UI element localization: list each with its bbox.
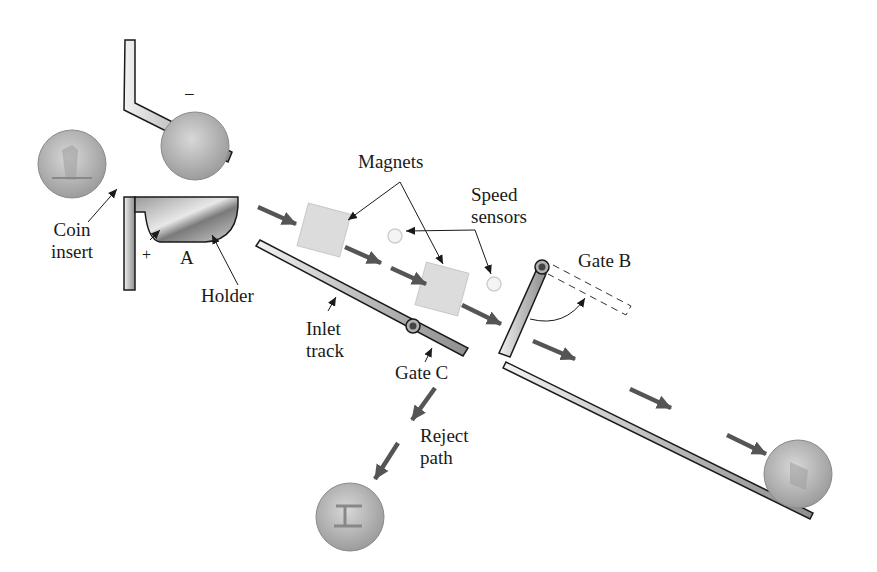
arrow-right-icon xyxy=(391,268,426,284)
inlet-track-label-line1: Inlet xyxy=(306,318,344,340)
speed-sensor-1 xyxy=(388,229,402,243)
coin-sorter-diagram: Coin insert − + A Holder Magnets Speed s… xyxy=(0,0,877,572)
coin-icon xyxy=(38,130,106,198)
gate-c-pivot xyxy=(406,319,420,333)
magnets-label: Magnets xyxy=(358,151,423,173)
speed-sensors-label: Speed sensors xyxy=(471,184,527,228)
arrow-down-left-icon xyxy=(412,388,435,420)
gate-b-label: Gate B xyxy=(578,250,631,272)
exit-track xyxy=(503,362,813,519)
gate-c-pointer xyxy=(425,348,432,362)
holder-pointer xyxy=(212,235,238,285)
coin-insert-label-line1: Coin xyxy=(42,219,102,241)
speed-sensor-2 xyxy=(487,277,501,291)
magnet-pointer-1 xyxy=(348,182,400,220)
coin-insert-label: Coin insert xyxy=(42,219,102,263)
inlet-track-pointer xyxy=(328,297,336,311)
arrow-right-icon xyxy=(258,207,296,224)
coin-icon xyxy=(316,483,384,551)
coin-insert-label-line2: insert xyxy=(42,241,102,263)
coin-icon xyxy=(764,440,832,508)
reject-path-label-line2: path xyxy=(420,447,469,469)
coin-holder xyxy=(135,197,238,242)
coin-icon xyxy=(161,112,229,180)
gate-b-open-position xyxy=(548,265,631,315)
gate-c-label: Gate C xyxy=(395,362,448,384)
reject-path-label-line1: Reject xyxy=(420,425,469,447)
holder-label: Holder xyxy=(201,285,254,307)
minus-sign-label: − xyxy=(184,84,195,106)
arrow-right-icon xyxy=(345,247,381,263)
arrow-right-icon xyxy=(533,341,575,359)
diagram-canvas xyxy=(0,0,877,572)
inlet-track-label: Inlet track xyxy=(306,318,344,362)
plus-sign-label: + xyxy=(142,244,151,266)
speed-sensors-label-line2: sensors xyxy=(471,206,527,228)
arrow-down-left-icon xyxy=(375,443,398,479)
sensor-pointer-2 xyxy=(475,230,491,274)
sensor-pointer-1 xyxy=(406,230,475,231)
magnet-1 xyxy=(297,203,351,257)
gate-b-swing-arrow xyxy=(530,298,585,321)
arrow-right-icon xyxy=(727,435,766,454)
reject-path-label: Reject path xyxy=(420,425,469,469)
magnet-pointer-2 xyxy=(400,182,443,264)
point-a-label: A xyxy=(180,247,194,269)
coin-insert-pointer xyxy=(88,189,117,222)
inlet-track-label-line2: track xyxy=(306,340,344,362)
arrow-right-icon xyxy=(630,389,671,408)
magnet-2 xyxy=(415,262,469,316)
arrow-right-icon xyxy=(462,305,501,324)
holder-post xyxy=(124,197,135,290)
speed-sensors-label-line1: Speed xyxy=(471,184,527,206)
